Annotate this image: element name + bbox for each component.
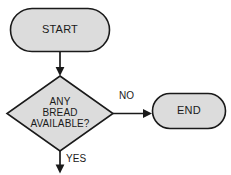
edge-decision-yes: YES [56,151,87,174]
flowchart-canvas: START ANY BREAD AVAILABLE? NO END YES [0,0,231,175]
arrowhead-down-yes [56,165,65,174]
edge-decision-to-end: NO [113,90,152,118]
start-label: START [42,23,78,35]
arrowhead-down-to-decision [56,67,65,76]
edge-label-no: NO [119,90,134,101]
edge-label-yes: YES [66,153,87,164]
arrowhead-right-to-end [143,109,152,118]
decision-label-line-1: ANY [50,96,71,107]
decision-label-line-3: AVAILABLE? [31,118,90,129]
flowchart-svg: START ANY BREAD AVAILABLE? NO END YES [0,0,231,175]
edge-start-to-decision [56,52,65,76]
decision-label-line-2: BREAD [43,107,78,118]
node-decision[interactable]: ANY BREAD AVAILABLE? [7,76,113,151]
end-label: END [177,104,201,116]
node-start[interactable]: START [11,9,110,52]
node-end[interactable]: END [153,94,226,129]
